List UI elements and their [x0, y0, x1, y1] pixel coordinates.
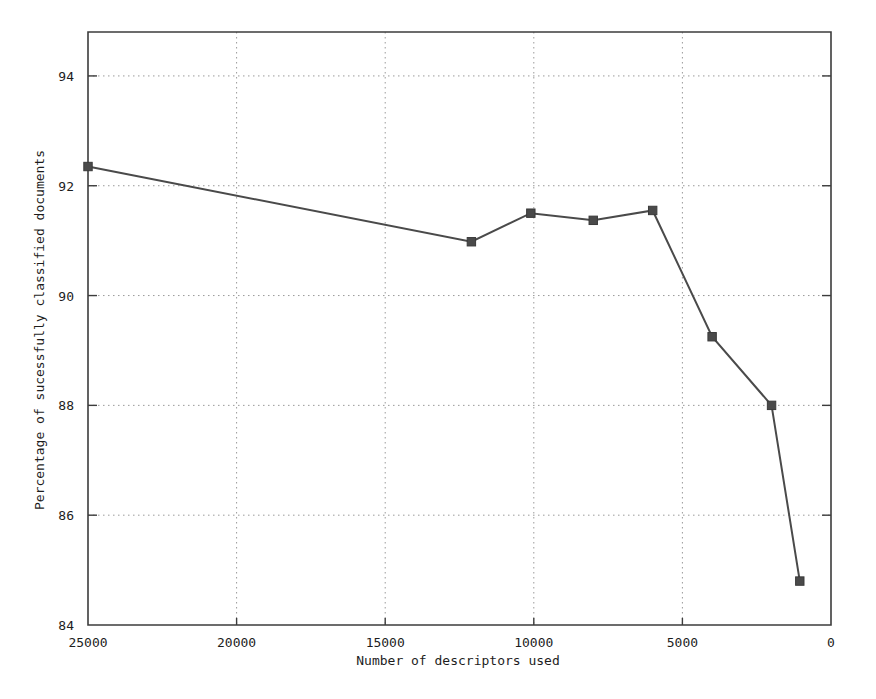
y-tick-label: 84: [58, 618, 74, 633]
y-tick-label: 92: [58, 179, 74, 194]
x-tick-label: 10000: [514, 635, 553, 650]
x-tick-label: 15000: [366, 635, 405, 650]
data-point-marker: [796, 577, 804, 585]
y-tick-label: 94: [58, 69, 74, 84]
x-tick-label: 25000: [68, 635, 107, 650]
y-tick-labels-group: 848688909294: [58, 69, 74, 633]
axis-frame-group: [88, 32, 831, 625]
plot-frame: [88, 32, 831, 625]
x-tick-labels-group: 2500020000150001000050000: [68, 635, 834, 650]
chart-canvas: 2500020000150001000050000 848688909294 N…: [0, 0, 876, 699]
data-point-marker: [767, 401, 775, 409]
data-point-marker: [589, 216, 597, 224]
chart-figure: 2500020000150001000050000 848688909294 N…: [0, 0, 876, 699]
x-tick-label: 5000: [667, 635, 698, 650]
data-point-marker: [708, 333, 716, 341]
x-tick-label: 0: [827, 635, 835, 650]
x-tick-label: 20000: [217, 635, 256, 650]
x-axis-title: Number of descriptors used: [356, 653, 560, 668]
data-line-classification-accuracy: [88, 167, 800, 582]
data-series-group: [84, 162, 804, 585]
data-point-marker: [527, 209, 535, 217]
data-point-marker: [84, 162, 92, 170]
data-point-marker: [467, 238, 475, 246]
data-point-marker: [648, 206, 656, 214]
y-tick-label: 86: [58, 508, 74, 523]
tick-marks-group: [88, 76, 831, 625]
y-tick-label: 88: [58, 398, 74, 413]
y-axis-title: Percentage of sucessfully classified doc…: [32, 150, 47, 510]
y-tick-label: 90: [58, 289, 74, 304]
gridlines-group: [88, 32, 831, 625]
